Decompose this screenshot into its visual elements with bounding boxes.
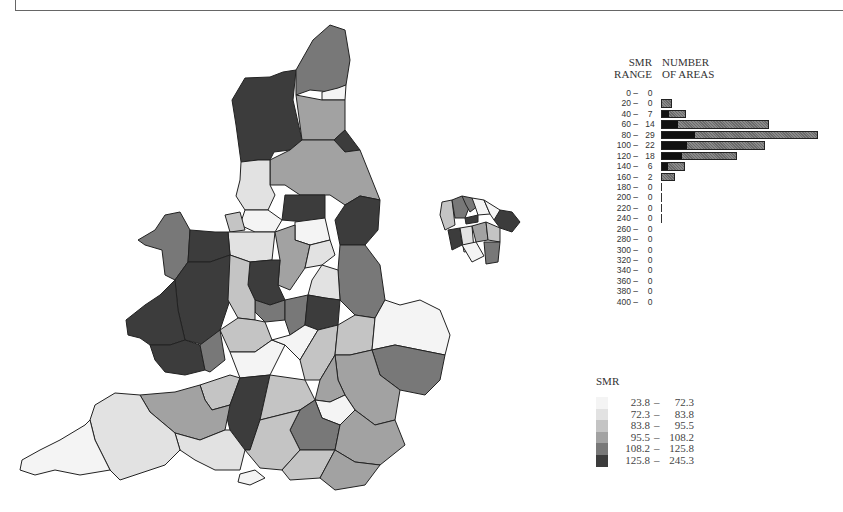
histogram-row: 60 –14 bbox=[590, 119, 840, 129]
legend-swatch bbox=[596, 443, 608, 455]
histogram-bar bbox=[661, 193, 662, 202]
region-cambridgeshire bbox=[335, 315, 375, 355]
histogram-row: 160 –2 bbox=[590, 172, 840, 182]
histogram-row: 40 –7 bbox=[590, 109, 840, 119]
region-dorset bbox=[175, 430, 245, 470]
histogram-bar bbox=[661, 162, 685, 171]
legend-row: 125.8–245.3 bbox=[596, 455, 619, 467]
histogram-bar bbox=[661, 99, 672, 108]
histogram-row: 120 –18 bbox=[590, 151, 840, 161]
region-west-yorkshire bbox=[282, 195, 325, 222]
histogram-bar bbox=[661, 214, 662, 223]
histogram-row: 100 –22 bbox=[590, 140, 840, 150]
region-greater-manchester bbox=[240, 210, 282, 232]
histogram-row: 400 –0 bbox=[590, 297, 840, 307]
histogram-row: 360 –0 bbox=[590, 276, 840, 286]
legend-row: 72.3–83.8 bbox=[596, 409, 619, 421]
region-dyfed bbox=[126, 280, 185, 345]
region-northumberland bbox=[296, 25, 350, 95]
histogram-row: 340 –0 bbox=[590, 265, 840, 275]
histogram-bar bbox=[661, 152, 737, 161]
histogram-bar bbox=[661, 110, 686, 119]
legend-swatch bbox=[596, 455, 608, 467]
histogram-header-count: NUMBER OF AREAS bbox=[662, 56, 714, 80]
histogram-row: 320 –0 bbox=[590, 255, 840, 265]
histogram-row: 200 –0 bbox=[590, 192, 840, 202]
region-lincolnshire bbox=[338, 245, 385, 318]
histogram-row: 240 –0 bbox=[590, 213, 840, 223]
legend-swatch bbox=[596, 397, 608, 409]
histogram-rows: 0 –0 20 –0 40 –7 60 –14 80 –29 100 –22 1… bbox=[590, 88, 840, 307]
region-northamptonshire bbox=[305, 295, 340, 330]
histogram-row: 280 –0 bbox=[590, 234, 840, 244]
legend-row: 95.5–108.2 bbox=[596, 432, 619, 444]
histogram-bar bbox=[661, 204, 662, 213]
histogram-row: 20 –0 bbox=[590, 98, 840, 108]
region-isle-of-wight bbox=[238, 470, 265, 485]
choropleth-map bbox=[0, 0, 590, 512]
histogram-bar bbox=[661, 183, 662, 192]
legend-swatch bbox=[596, 409, 608, 421]
legend-row: 23.8–72.3 bbox=[596, 397, 619, 409]
histogram-header-smr: SMR RANGE bbox=[590, 56, 652, 80]
region-merseyside bbox=[225, 212, 245, 232]
histogram-bar bbox=[661, 131, 818, 140]
histogram-bar bbox=[661, 141, 765, 150]
legend-swatch bbox=[596, 432, 608, 444]
legend-title: SMR bbox=[596, 375, 619, 387]
histogram-row: 180 –0 bbox=[590, 182, 840, 192]
histogram-bar bbox=[661, 173, 675, 182]
region-leicestershire bbox=[308, 265, 340, 300]
histogram-row: 300 –0 bbox=[590, 245, 840, 255]
smr-legend: SMR 23.8–72.3 72.3–83.8 83.8–95.5 95.5–1… bbox=[596, 375, 619, 467]
histogram-row: 140 –6 bbox=[590, 161, 840, 171]
histogram-row: 80 –29 bbox=[590, 130, 840, 140]
legend-row: 83.8–95.5 bbox=[596, 420, 619, 432]
histogram-row: 220 –0 bbox=[590, 203, 840, 213]
region-lancashire bbox=[236, 160, 275, 210]
legend-swatch bbox=[596, 420, 608, 432]
region-glamorgan bbox=[150, 340, 205, 375]
histogram-row: 0 –0 bbox=[590, 88, 840, 98]
histogram-row: 380 –0 bbox=[590, 286, 840, 296]
histogram-row: 260 –0 bbox=[590, 224, 840, 234]
histogram-bar bbox=[661, 120, 769, 129]
region-norfolk bbox=[372, 300, 450, 355]
legend-row: 108.2–125.8 bbox=[596, 443, 619, 455]
london-inset bbox=[440, 196, 520, 264]
region-durham bbox=[296, 95, 345, 140]
